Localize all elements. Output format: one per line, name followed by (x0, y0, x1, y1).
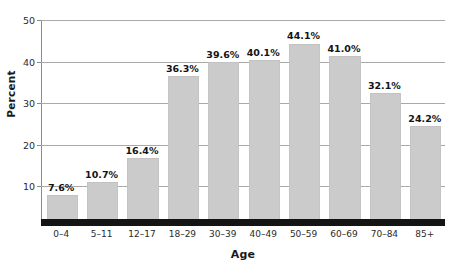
x-axis-tick-labels: 0–45–1112–1718–2930–3940–4950–5960–6970–… (41, 229, 445, 243)
bar[interactable] (208, 62, 239, 219)
bar-value-label: 36.3% (166, 63, 199, 74)
y-tick-label: 10 (23, 181, 35, 192)
x-tick-label: 0–4 (53, 229, 69, 239)
bar-slot: 7.6% (41, 20, 81, 219)
y-tick-label: 30 (23, 98, 35, 109)
bar-value-label: 32.1% (368, 80, 401, 91)
bar-slot: 44.1% (283, 20, 323, 219)
bar-value-label: 16.4% (126, 145, 159, 156)
bar[interactable] (47, 195, 78, 219)
x-tick-label: 30–39 (209, 229, 236, 239)
x-tick-label: 40–49 (249, 229, 276, 239)
bar[interactable] (410, 126, 441, 219)
x-tick-label: 18–29 (169, 229, 196, 239)
bar-value-label: 41.0% (328, 43, 361, 54)
bar-value-label: 7.6% (48, 182, 74, 193)
x-tick-label: 85+ (415, 229, 434, 239)
y-tick-label: 40 (23, 56, 35, 67)
bar-value-label: 39.6% (206, 49, 239, 60)
x-tick-label: 12–17 (128, 229, 155, 239)
bar[interactable] (249, 60, 280, 219)
bar-value-label: 44.1% (287, 30, 320, 41)
bar-slot: 39.6% (203, 20, 243, 219)
bars-group: 7.6%10.7%16.4%36.3%39.6%40.1%44.1%41.0%3… (41, 20, 445, 219)
bar[interactable] (168, 76, 199, 219)
bar-chart-figure: Percent 1020304050 7.6%10.7%16.4%36.3%39… (0, 0, 454, 272)
x-tick-label: 70–84 (371, 229, 398, 239)
bar-slot: 16.4% (122, 20, 162, 219)
y-axis-title: Percent (5, 59, 17, 129)
bar[interactable] (370, 93, 401, 219)
bar-value-label: 40.1% (247, 47, 280, 58)
bar-value-label: 24.2% (408, 113, 441, 124)
y-tick-label: 20 (23, 139, 35, 150)
bar-slot: 40.1% (243, 20, 283, 219)
y-tick-label: 50 (23, 15, 35, 26)
x-axis-baseline (41, 219, 445, 226)
bar[interactable] (127, 158, 158, 219)
bar[interactable] (329, 56, 360, 219)
bar-slot: 41.0% (324, 20, 364, 219)
x-tick-label: 60–69 (330, 229, 357, 239)
bar-slot: 36.3% (162, 20, 202, 219)
bar-slot: 10.7% (81, 20, 121, 219)
bar[interactable] (289, 44, 320, 220)
x-tick-label: 5–11 (91, 229, 113, 239)
x-tick-label: 50–59 (290, 229, 317, 239)
bar-value-label: 10.7% (85, 169, 118, 180)
bar-slot: 24.2% (405, 20, 445, 219)
bar[interactable] (87, 182, 118, 219)
bar-slot: 32.1% (364, 20, 404, 219)
x-axis-title: Age (41, 248, 445, 261)
